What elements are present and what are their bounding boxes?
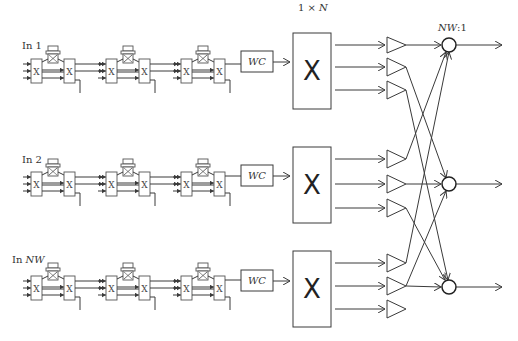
amplifier-1-1 (387, 37, 406, 53)
amplifier-2-3 (387, 199, 406, 217)
combiner-nw (442, 280, 456, 294)
splitter-label: 1 × N (298, 2, 329, 13)
svg-text:WC: WC (248, 170, 266, 181)
input-label-nw: In NW (12, 254, 45, 265)
combiner-2 (442, 177, 456, 191)
stage-1-2 (98, 46, 155, 93)
switch-architecture-diagram: X X In 1 (0, 0, 518, 341)
amplifier-nw-2 (387, 277, 406, 295)
input-row-1: In 1 WC 1 × N X (22, 2, 406, 109)
svg-text:WC: WC (248, 56, 266, 67)
stage-1-3 (173, 46, 230, 93)
interconnect (406, 45, 449, 287)
input-row-nw: In NW WC X (12, 251, 406, 327)
input-row-2: In 2 WC X (22, 147, 406, 223)
amplifier-2-2 (387, 175, 406, 193)
stage-nw-1 (23, 263, 80, 310)
amplifier-2-1 (387, 150, 406, 168)
stage-nw-2 (98, 263, 155, 310)
amplifier-1-2 (387, 58, 406, 76)
svg-text:X: X (303, 56, 321, 86)
stage-2-1 (23, 159, 80, 206)
combiner-label: NW:1 (437, 22, 467, 33)
stage-1-1 (23, 46, 80, 93)
svg-text:X: X (303, 274, 321, 304)
stage-2-2 (98, 159, 155, 206)
amplifier-nw-1 (387, 254, 406, 272)
combiner-1 (442, 38, 456, 52)
stage-nw-3 (173, 263, 230, 310)
svg-text:X: X (303, 170, 321, 200)
amplifier-nw-3 (387, 300, 406, 318)
input-label-2: In 2 (22, 154, 42, 165)
amplifier-1-3 (387, 81, 406, 99)
svg-text:WC: WC (248, 275, 266, 286)
stage-2-3 (173, 159, 230, 206)
input-label-1: In 1 (22, 40, 42, 51)
